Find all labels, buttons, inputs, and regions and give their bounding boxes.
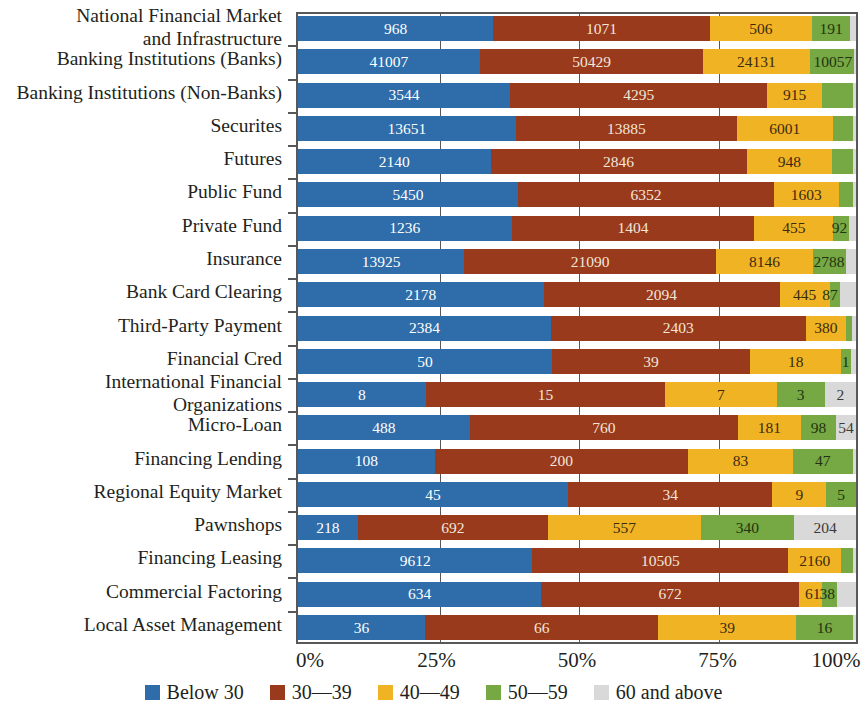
category-label-line: Organizations (0, 394, 282, 417)
bar-segment: 45 (298, 482, 568, 507)
table-row: 23842403380 (298, 316, 856, 341)
category-label: Public Fund (0, 182, 282, 205)
bar-segment: 13885 (516, 116, 738, 141)
bar-segment-value: 9 (795, 487, 803, 503)
bar-segment-value: 204 (813, 520, 836, 536)
bar-segment (846, 249, 855, 274)
bar-segment (854, 49, 856, 74)
legend-item[interactable]: 60 and above (594, 681, 723, 704)
bar-segment: 2384 (298, 316, 551, 341)
bar-segment-value: 1404 (618, 220, 649, 236)
legend-item[interactable]: 30—39 (270, 681, 352, 704)
bar-segment: 948 (747, 149, 832, 174)
bar-segment: 54 (836, 415, 856, 440)
category-label: Private Fund (0, 216, 282, 239)
bar-segment (853, 449, 856, 474)
bar-segment-value: 455 (782, 220, 805, 236)
bar-segment (840, 282, 856, 307)
category-label: Micro-Loan (0, 415, 282, 438)
bar-rows: 9681071506191410075042924131100573544429… (296, 12, 858, 644)
bar-segment: 8 (298, 382, 426, 407)
bar-segment: 15 (426, 382, 665, 407)
category-label: Securites (0, 116, 282, 139)
table-row: 9681071506191 (298, 16, 856, 41)
bar-segment: 6352 (518, 182, 774, 207)
legend-label: 30—39 (292, 681, 352, 704)
bar-segment-value: 13885 (607, 121, 646, 137)
bar-segment-value: 8 (358, 387, 366, 403)
bar-segment-value: 98 (811, 420, 827, 436)
bar-segment (822, 83, 853, 108)
bar-segment-value: 3 (797, 387, 805, 403)
table-row: 545063521603 (298, 182, 856, 207)
category-label: Pawnshops (0, 515, 282, 538)
category-label: Financing Lending (0, 449, 282, 472)
category-label: Futures (0, 149, 282, 172)
bar-segment: 191 (812, 16, 851, 41)
category-label-line: Securites (0, 116, 282, 139)
bar-segment-value: 38 (819, 586, 835, 602)
bar-segment (839, 182, 854, 207)
bar-segment-value: 6001 (769, 121, 800, 137)
category-label-line: Pawnshops (0, 515, 282, 538)
bar-segment: 39 (552, 349, 750, 374)
bar-segment-value: 18 (788, 354, 804, 370)
bar-segment: 83 (688, 449, 793, 474)
bar-segment: 92 (833, 216, 849, 241)
bar-segment: 50 (298, 349, 552, 374)
legend-item[interactable]: 50—59 (486, 681, 568, 704)
axis-tickmark (288, 145, 296, 147)
axis-tickmark (288, 577, 296, 579)
bar-segment-value: 45 (425, 487, 441, 503)
category-label-line: Insurance (0, 249, 282, 272)
category-label: Commercial Factoring (0, 582, 282, 605)
legend-swatch-icon (486, 685, 501, 700)
legend-swatch-icon (145, 685, 160, 700)
bar-segment: 488 (298, 415, 470, 440)
bar-segment-value: 948 (778, 154, 801, 170)
table-row: 1236140445592 (298, 216, 856, 241)
bar-segment-value: 915 (783, 87, 806, 103)
axis-tickmark (288, 178, 296, 180)
bar-segment-value: 39 (643, 354, 659, 370)
bar-segment (837, 582, 856, 607)
bar-segment (853, 83, 856, 108)
bar-segment-value: 1071 (586, 21, 617, 37)
legend: Below 3030—3940—4950—5960 and above (0, 678, 867, 707)
bar-segment: 5 (826, 482, 856, 507)
legend-item[interactable]: 40—49 (378, 681, 460, 704)
bar-segment: 10505 (532, 548, 788, 573)
bar-segment-value: 34 (662, 487, 678, 503)
bar-segment: 36 (298, 615, 425, 640)
bar-segment: 380 (806, 316, 846, 341)
bar-segment-value: 672 (659, 586, 682, 602)
legend-item[interactable]: Below 30 (145, 681, 244, 704)
bar-segment: 4295 (510, 83, 767, 108)
category-label-line: and Infrastructure (0, 28, 282, 51)
x-axis-tick-label: 50% (558, 648, 597, 673)
legend-label: 60 and above (616, 681, 723, 704)
axis-tickmark (288, 112, 296, 114)
category-label-line: Bank Card Clearing (0, 282, 282, 305)
legend-label: 40—49 (400, 681, 460, 704)
bar-segment-value: 3544 (389, 87, 420, 103)
bar-segment-value: 1236 (389, 220, 420, 236)
bar-segment: 7 (665, 382, 777, 407)
axis-tickmark (288, 544, 296, 546)
bar-segment-value: 87 (822, 287, 838, 303)
bar-segment-value: 9612 (400, 553, 431, 569)
bar-segment: 34 (568, 482, 772, 507)
bar-segment (853, 182, 856, 207)
bar-segment: 2846 (491, 149, 747, 174)
bar-segment-value: 488 (372, 420, 395, 436)
category-label-line: Private Fund (0, 216, 282, 239)
category-label-line: Banking Institutions (Non-Banks) (0, 83, 282, 106)
category-axis-labels: National Financial Marketand Infrastruct… (0, 12, 290, 644)
table-row: 9612105052160 (298, 548, 856, 573)
table-row: 4887601819854 (298, 415, 856, 440)
bar-segment (850, 16, 856, 41)
bar-segment: 1 (841, 349, 851, 374)
bar-segment-value: 2160 (799, 553, 830, 569)
bar-segment (849, 216, 856, 241)
bar-segment: 47 (793, 449, 853, 474)
